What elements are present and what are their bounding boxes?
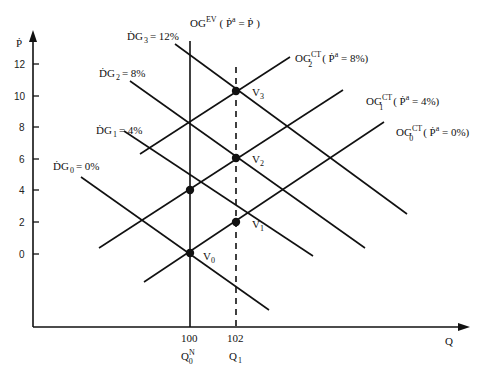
label-og-ct-2: OGCT2( Ṗa = 8%) xyxy=(295,50,369,69)
y-tick-4: 4 xyxy=(19,185,25,196)
label-v0: V0 xyxy=(203,250,215,265)
label-og-ev: OGEV( Ṗa = Ṗ ) xyxy=(190,15,260,30)
q0n-label: QN0 xyxy=(181,348,195,366)
y-axis-arrow-icon xyxy=(29,30,37,42)
y-tick-0: 0 xyxy=(19,249,25,260)
y-tick-6: 6 xyxy=(19,154,25,165)
label-v2: V2 xyxy=(252,153,264,168)
dg-0-line xyxy=(81,177,269,310)
y-tick-2: 2 xyxy=(19,217,25,228)
point-v2 xyxy=(232,154,240,162)
label-dg-1: ḊG1= 4% xyxy=(96,124,143,139)
inflation-output-diagram: Ṗ Q 12 10 8 6 4 2 0 100 102 QN0 Q1 xyxy=(0,0,486,381)
y-tick-8: 8 xyxy=(19,122,25,133)
label-dg-0: ḊG0= 0% xyxy=(53,160,100,175)
label-v1: V1 xyxy=(252,218,264,233)
og-ct-0-line xyxy=(144,122,384,282)
point-v1 xyxy=(232,218,240,226)
x-axis-arrow-icon xyxy=(458,323,470,331)
y-tick-12: 12 xyxy=(14,59,26,70)
y-ticks xyxy=(33,64,39,254)
x-axis-label: Q xyxy=(445,335,453,347)
og-ct-1-line xyxy=(99,90,343,248)
point-v0 xyxy=(186,249,194,257)
supply-curves xyxy=(99,57,384,282)
dg-1-line xyxy=(124,131,313,256)
x-tick-102: 102 xyxy=(227,332,244,344)
label-dg-3: ḊG3= 12% xyxy=(127,30,179,45)
point-v3 xyxy=(232,87,240,95)
label-og-ct-0: OGCT0( Ṗa = 0%) xyxy=(396,124,470,143)
demand-curves xyxy=(81,44,407,310)
dg-2-line xyxy=(130,81,365,248)
x-tick-100: 100 xyxy=(181,332,198,344)
point-mid xyxy=(186,186,194,194)
y-axis-label: Ṗ xyxy=(16,37,22,49)
equilibrium-points xyxy=(186,87,240,257)
label-v3: V3 xyxy=(252,86,264,101)
label-og-ct-1: OGCT1( Ṗa = 4%) xyxy=(366,93,440,112)
y-tick-10: 10 xyxy=(14,91,26,102)
label-dg-2: ḊG2= 8% xyxy=(99,67,146,82)
q1-label: Q1 xyxy=(229,350,242,365)
